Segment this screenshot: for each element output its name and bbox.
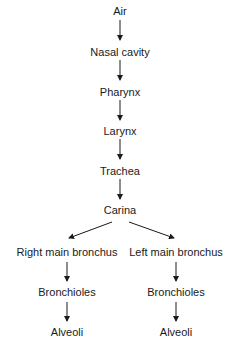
- node-trachea: Trachea: [100, 166, 140, 177]
- node-carina: Carina: [104, 205, 136, 216]
- node-larynx: Larynx: [103, 126, 136, 137]
- node-air: Air: [113, 6, 126, 17]
- node-pharynx: Pharynx: [100, 87, 140, 98]
- node-right-bronchus: Right main bronchus: [17, 247, 118, 258]
- arrow-icon: [129, 222, 174, 238]
- node-right-alveoli: Alveoli: [51, 327, 83, 338]
- arrow-icon: [69, 222, 112, 238]
- node-nasal: Nasal cavity: [90, 47, 149, 58]
- node-left-bronchioles: Bronchioles: [147, 287, 204, 298]
- node-left-alveoli: Alveoli: [160, 327, 192, 338]
- node-left-bronchus: Left main bronchus: [129, 247, 223, 258]
- node-right-bronchioles: Bronchioles: [38, 287, 95, 298]
